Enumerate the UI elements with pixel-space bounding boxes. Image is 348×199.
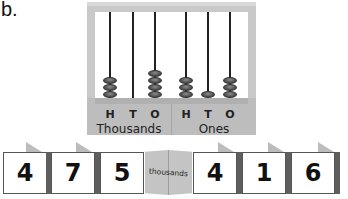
thousands-separator-card: thousands [145,150,192,195]
bead [103,91,117,98]
card-flap [318,142,334,152]
problem-label: b. [1,0,18,21]
rod-ones-t [207,12,209,102]
card-spine [335,152,340,194]
place-value-cards: 4 7 5 thousands 4 1 6 [0,150,348,196]
digit-card: 7 [51,152,95,194]
bead [201,91,215,98]
card-flap [268,142,284,152]
column-label: O [148,108,162,121]
column-label: H [103,108,117,121]
rod-thousands-t [132,12,134,102]
bead [103,77,117,84]
bead [148,70,162,77]
column-label: O [223,108,237,121]
digit-card: 6 [291,152,335,194]
bead [223,77,237,84]
bead [148,77,162,84]
digit-card: 4 [3,152,47,194]
card-flap [218,142,234,152]
bead [223,84,237,91]
column-label: T [201,108,215,121]
bead [179,91,193,98]
bead [179,77,193,84]
card-flap [76,142,92,152]
column-label: T [126,108,140,121]
digit-card: 5 [100,152,144,194]
bead [223,91,237,98]
digit-card: 1 [242,152,286,194]
digit-card: 4 [193,152,237,194]
separator-label: thousands [149,167,189,179]
bead [148,91,162,98]
bead [148,84,162,91]
bead [179,84,193,91]
bead [103,84,117,91]
group-label-ones: Ones [172,122,256,136]
card-flap [26,142,42,152]
group-label-thousands: Thousands [87,122,171,136]
abacus: H T O H T O Thousands Ones [87,2,256,135]
column-label: H [179,108,193,121]
